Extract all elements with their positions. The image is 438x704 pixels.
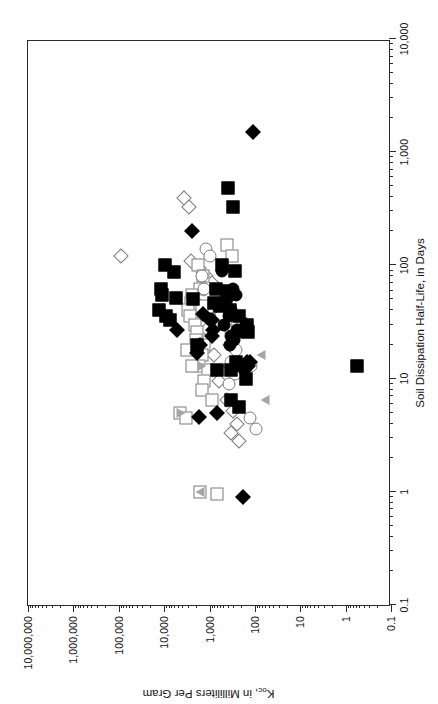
y-axis-title-main: K	[267, 688, 275, 700]
circle-open-marker-icon	[203, 250, 216, 263]
data-point	[212, 296, 225, 309]
triangle-down-filled-marker-icon	[245, 327, 254, 337]
data-point	[183, 201, 194, 212]
x-tick-major	[389, 264, 396, 265]
square-filled-marker-icon	[221, 182, 234, 195]
x-tick-minor	[389, 56, 393, 57]
data-point	[203, 250, 216, 263]
x-tick-minor	[389, 49, 393, 50]
x-tick-minor	[389, 83, 393, 84]
x-tick-major	[389, 491, 396, 492]
x-tick-minor	[389, 196, 393, 197]
x-tick-minor	[389, 298, 393, 299]
data-point	[227, 200, 240, 213]
data-point	[187, 293, 200, 306]
x-tick-minor	[389, 63, 393, 64]
square-filled-marker-icon	[169, 291, 182, 304]
data-point	[229, 264, 242, 277]
x-tick-minor	[389, 169, 393, 170]
data-point	[247, 127, 258, 138]
triangle-up-filled-marker-icon	[227, 311, 236, 321]
x-tick-minor	[389, 210, 393, 211]
x-tick-minor	[389, 324, 393, 325]
x-tick-minor	[389, 275, 393, 276]
x-tick-minor	[389, 230, 393, 231]
circle-open-marker-icon	[195, 270, 208, 283]
square-filled-marker-icon	[156, 288, 169, 301]
diamond-filled-marker-icon	[245, 125, 261, 141]
x-tick-major	[389, 151, 396, 152]
data-point	[163, 313, 176, 326]
data-point	[169, 291, 182, 304]
diamond-open-marker-icon	[181, 199, 197, 215]
y-axis-title-subscript: oc	[258, 686, 266, 695]
data-point	[245, 327, 254, 337]
x-tick-minor	[389, 162, 393, 163]
x-tick-major	[389, 378, 396, 379]
x-tick-label: 100	[398, 256, 410, 274]
data-point	[216, 264, 229, 277]
y-axis-title: Koc, in Milliliters Per Gram	[27, 341, 390, 704]
square-filled-marker-icon	[229, 264, 242, 277]
x-tick-minor	[389, 156, 393, 157]
data-point	[195, 270, 208, 283]
x-tick-label: 10,000	[398, 23, 410, 56]
x-tick-label: 10	[398, 373, 410, 385]
square-filled-marker-icon	[187, 293, 200, 306]
x-tick-minor	[389, 270, 393, 271]
circle-filled-marker-icon	[212, 296, 225, 309]
x-tick-minor	[389, 97, 393, 98]
diamond-filled-marker-icon	[184, 224, 200, 240]
data-point	[206, 330, 217, 341]
x-tick-minor	[389, 72, 393, 73]
y-tick-major	[391, 605, 392, 612]
x-tick-label: 1	[398, 489, 410, 495]
circle-filled-marker-icon	[216, 264, 229, 277]
data-point	[187, 226, 198, 237]
x-tick-minor	[389, 117, 393, 118]
x-tick-minor	[389, 309, 393, 310]
figure-stage: EXPLANATION NPS (Det)MCPS (Det)Delmarva …	[0, 0, 438, 704]
x-tick-label: 1,000	[398, 139, 410, 166]
data-point	[227, 311, 236, 321]
x-tick-minor	[389, 290, 393, 291]
data-point	[167, 265, 180, 278]
diamond-open-marker-icon	[113, 249, 129, 265]
square-filled-marker-icon	[227, 200, 240, 213]
data-point	[221, 182, 234, 195]
x-tick-major	[389, 38, 396, 39]
x-tick-minor	[389, 185, 393, 186]
square-filled-marker-icon	[163, 313, 176, 326]
x-tick-minor	[389, 43, 393, 44]
x-tick-minor	[389, 176, 393, 177]
square-filled-marker-icon	[167, 265, 180, 278]
x-axis-title: Soil Dissipation Half-Life, in Days	[414, 40, 426, 606]
y-axis-title-rest: , in Milliliters Per Gram	[143, 688, 259, 700]
data-point	[156, 288, 169, 301]
data-point	[115, 251, 126, 262]
x-tick-label: 0.1	[398, 598, 410, 613]
x-tick-minor	[389, 282, 393, 283]
